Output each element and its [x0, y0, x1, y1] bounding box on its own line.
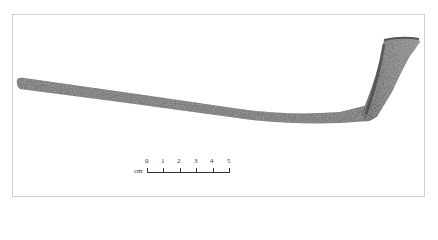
scale-unit-label: cm [134, 168, 143, 175]
scale-line [147, 172, 230, 173]
scale-tick [196, 168, 197, 173]
scale-tick [180, 168, 181, 173]
scale-tick-label: 1 [161, 158, 165, 165]
pipe-bowl [362, 38, 420, 121]
scale-tick-label: 0 [145, 158, 149, 165]
scale-tick-label: 5 [227, 158, 231, 165]
scale-bar: 0 1 2 3 4 5 cm [130, 155, 250, 183]
scale-tick-label: 3 [194, 158, 198, 165]
scale-tick [213, 168, 214, 173]
scale-tick [229, 168, 230, 173]
scale-tick-label: 4 [210, 158, 214, 165]
scale-tick [147, 168, 148, 173]
scale-tick-label: 2 [177, 158, 181, 165]
scale-tick [163, 168, 164, 173]
pipe-stem [17, 78, 378, 124]
